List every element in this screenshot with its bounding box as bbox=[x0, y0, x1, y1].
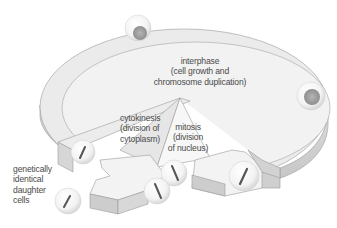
interphase-line2: (cell growth and bbox=[140, 66, 260, 76]
mitosis-line1: mitosis bbox=[164, 122, 212, 132]
interphase-line3: chromosome duplication) bbox=[140, 77, 260, 87]
cell-daughter bbox=[55, 188, 81, 214]
mitosis-label: mitosis (division of nucleus) bbox=[164, 122, 212, 153]
daughter-cells-label: genetically identical daughter cells bbox=[13, 164, 52, 206]
daughter-line2: identical bbox=[13, 174, 52, 184]
interphase-line1: interphase bbox=[140, 56, 260, 66]
cell-interphase-top bbox=[125, 15, 151, 41]
daughter-line3: daughter bbox=[13, 185, 52, 195]
cell-mitosis-right bbox=[229, 161, 259, 191]
cell-interphase-right bbox=[297, 82, 325, 110]
interphase-label: interphase (cell growth and chromosome d… bbox=[140, 56, 260, 87]
cell-ring-left bbox=[71, 140, 95, 164]
daughter-line4: cells bbox=[13, 195, 52, 205]
cytokinesis-label: cytokinesis (division of cytoplasm) bbox=[120, 113, 160, 144]
cell-cycle-diagram: interphase (cell growth and chromosome d… bbox=[0, 0, 337, 228]
mitosis-line3: of nucleus) bbox=[164, 143, 212, 153]
cytokinesis-line3: cytoplasm) bbox=[120, 134, 160, 144]
cell-split-lower bbox=[144, 178, 170, 204]
cytokinesis-line1: cytokinesis bbox=[120, 113, 160, 123]
cytokinesis-line2: (division of bbox=[120, 123, 160, 133]
mitosis-line2: (division bbox=[164, 132, 212, 142]
daughter-line1: genetically bbox=[13, 164, 52, 174]
